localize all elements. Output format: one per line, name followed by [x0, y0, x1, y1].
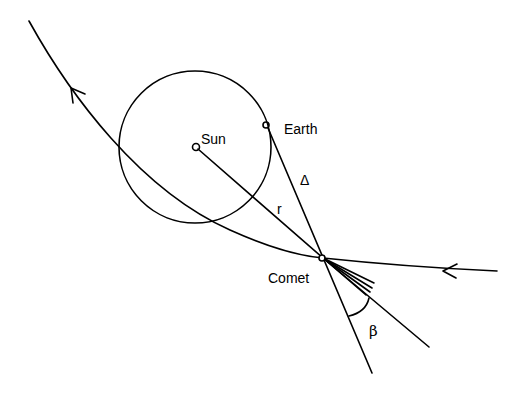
sun-label: Sun	[201, 131, 226, 147]
r-label: r	[277, 201, 282, 217]
earth-orbit	[119, 71, 271, 223]
orbit-arrow-right-icon	[443, 264, 457, 278]
comet-orbit	[29, 21, 497, 271]
beta-angle-arc	[349, 298, 369, 316]
earth-label: Earth	[284, 121, 317, 137]
sun-comet-line	[198, 149, 323, 258]
comet-label: Comet	[268, 270, 309, 286]
beta-label: β	[369, 322, 378, 340]
comet-marker	[319, 255, 325, 261]
comet-diagram: Sun Earth r Δ Comet β	[0, 0, 522, 396]
delta-label: Δ	[300, 172, 309, 188]
